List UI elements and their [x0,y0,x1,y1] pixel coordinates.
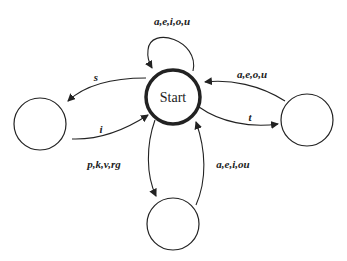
label-self-loop: a,e,i,o,u [154,15,190,27]
transition-start-left [68,78,146,101]
transition-start-bottom [148,120,156,196]
state-start: Start [146,70,200,124]
label-s: s [93,71,98,83]
state-diagram: Start a,e,i,o,u s i a,e,o,u t p,k,v,rg a… [0,0,347,261]
transition-self-loop [148,37,194,71]
label-pkvrg: p,k,v,rg [86,158,121,170]
state-left [14,98,66,150]
transition-bottom-start [196,122,204,205]
transition-left-start [72,115,148,139]
label-aeou: a,e,o,u [237,68,267,80]
transition-start-right [199,107,278,125]
state-right [281,94,333,146]
state-bottom [147,198,199,250]
label-t: t [248,111,252,123]
label-i: i [99,123,103,135]
label-aeiou-bottom: a,e,i,ou [216,158,249,170]
state-start-label: Start [160,90,187,105]
transition-right-start [205,81,285,101]
